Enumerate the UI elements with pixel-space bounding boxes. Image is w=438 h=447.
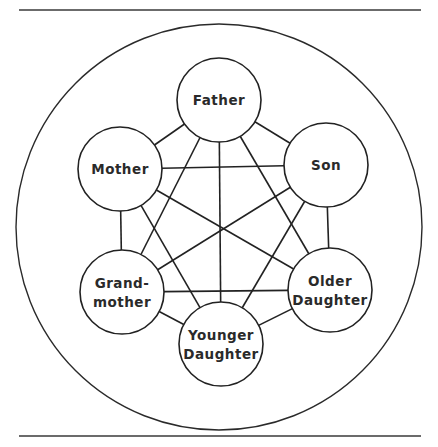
node-label: Grand- — [95, 275, 150, 291]
edge-grandmother-mother — [121, 211, 122, 250]
node-father: Father — [177, 58, 261, 142]
edge-father-mother — [154, 124, 184, 145]
node-label: Mother — [91, 161, 149, 177]
node-label: Father — [193, 92, 245, 108]
edge-father-younger-daughter — [219, 142, 220, 302]
node-circle — [179, 302, 263, 386]
node-label: mother — [93, 294, 151, 310]
node-label: Son — [311, 157, 341, 173]
node-younger-daughter: YoungerDaughter — [179, 302, 263, 386]
node-label: Younger — [187, 327, 254, 343]
node-label: Daughter — [292, 292, 367, 308]
edge-son-mother — [162, 166, 284, 168]
node-circle — [288, 248, 372, 332]
node-older-daughter: OlderDaughter — [288, 248, 372, 332]
edge-older-daughter-grandmother — [164, 290, 288, 291]
node-label: Daughter — [183, 346, 258, 362]
node-son: Son — [284, 123, 368, 207]
edge-younger-daughter-grandmother — [159, 312, 184, 325]
family-network-diagram: FatherSonOlderDaughterYoungerDaughterGra… — [0, 0, 438, 447]
edge-son-older-daughter — [327, 207, 328, 248]
node-label: Older — [308, 273, 352, 289]
diagram-canvas: FatherSonOlderDaughterYoungerDaughterGra… — [0, 0, 438, 447]
node-circle — [80, 250, 164, 334]
edge-father-son — [255, 122, 290, 143]
node-mother: Mother — [78, 127, 162, 211]
edge-older-daughter-younger-daughter — [259, 309, 293, 326]
node-grandmother: Grand-mother — [80, 250, 164, 334]
